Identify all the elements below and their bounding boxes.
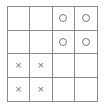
x-mark-icon: × [37, 61, 45, 70]
x-mark-icon: × [37, 85, 45, 94]
board-cell[interactable] [75, 31, 97, 55]
board-cell[interactable] [8, 7, 30, 31]
board-cell[interactable]: × [30, 78, 52, 102]
board-cell[interactable] [53, 31, 75, 55]
o-mark-icon [82, 38, 90, 46]
x-mark-icon: × [15, 85, 23, 94]
board-cell[interactable] [53, 7, 75, 31]
board-cell[interactable]: × [8, 54, 30, 78]
board-cell[interactable] [53, 54, 75, 78]
board-cell[interactable] [75, 54, 97, 78]
board-cell[interactable] [53, 78, 75, 102]
board-cell[interactable] [8, 31, 30, 55]
o-mark-icon [59, 14, 67, 22]
game-board: ×××× [7, 6, 98, 102]
o-mark-icon [82, 14, 90, 22]
board-cell[interactable] [75, 7, 97, 31]
o-mark-icon [59, 38, 67, 46]
board-cell[interactable]: × [30, 54, 52, 78]
board-cell[interactable]: × [8, 78, 30, 102]
x-mark-icon: × [15, 61, 23, 70]
board-cell[interactable] [30, 7, 52, 31]
board-cell[interactable] [30, 31, 52, 55]
board-cell[interactable] [75, 78, 97, 102]
